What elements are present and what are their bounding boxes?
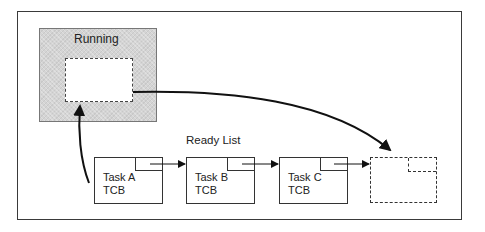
dispatch-arrow <box>79 106 89 183</box>
preempt-arrow <box>133 92 390 150</box>
arrows-layer <box>0 0 485 232</box>
